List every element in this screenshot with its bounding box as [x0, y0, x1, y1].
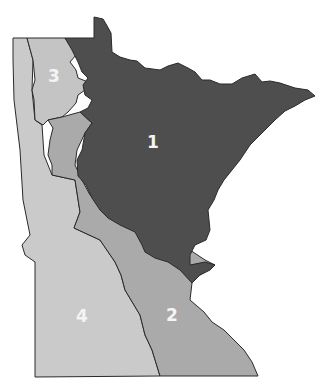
region-2-label: 2	[166, 307, 178, 324]
region-1-label: 1	[147, 134, 159, 151]
region-4-label: 4	[76, 308, 88, 325]
minnesota-region-map	[0, 0, 329, 386]
region-3-label: 3	[48, 68, 60, 85]
